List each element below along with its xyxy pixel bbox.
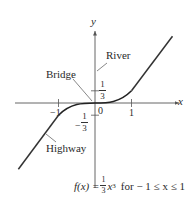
frac-numerator: 1: [99, 80, 106, 89]
function-caption: f(x) = 1 3 x3 for − 1 ≤ x ≤ 1: [74, 176, 185, 195]
y-tick-label-neg-third: 1 3: [81, 112, 88, 133]
x-axis-label: x: [178, 96, 183, 107]
river-label: River: [106, 50, 130, 61]
highway-upper-line: [132, 36, 173, 91]
highway-label: Highway: [46, 143, 86, 154]
frac-denominator: 3: [99, 92, 106, 101]
y-tick-label-neg-sign: −: [75, 120, 81, 131]
caption-frac-den: 3: [101, 187, 105, 195]
highway-leader: [46, 134, 56, 142]
origin-label: 0: [98, 106, 103, 116]
caption-fraction: 1 3: [100, 176, 106, 195]
bridge-label: Bridge: [46, 69, 76, 80]
caption-frac-num: 1: [101, 176, 105, 184]
caption-condition: for − 1 ≤ x ≤ 1: [121, 180, 185, 192]
y-tick-label-third: 1 3: [99, 80, 106, 101]
x-tick-label-neg1: −1: [50, 108, 61, 118]
frac-numerator: 1: [81, 112, 88, 121]
x-tick-label-1: 1: [129, 108, 134, 118]
river-leader: [97, 63, 107, 71]
caption-lhs: f(x) =: [74, 180, 99, 192]
y-axis-label: y: [91, 16, 96, 27]
bridge-leader: [73, 79, 92, 101]
frac-denominator: 3: [81, 124, 88, 133]
caption-exp: 3: [112, 182, 116, 190]
